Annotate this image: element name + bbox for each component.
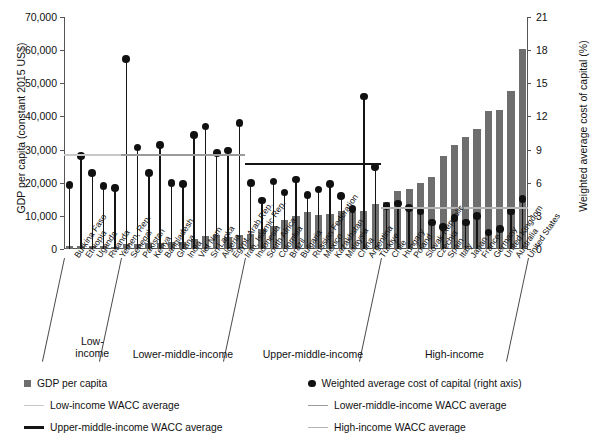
y-tick-label-left: 0: [2, 243, 57, 255]
wacc-dot: [315, 186, 323, 194]
group-label: Low- income: [64, 335, 121, 359]
y-tick-label-left: 60,000: [2, 44, 57, 56]
y-tick-label-left: 30,000: [2, 144, 57, 156]
group-separator: [42, 258, 65, 362]
legend-square-icon: [24, 380, 31, 387]
y-tick-left: [60, 50, 64, 51]
group-label: Upper-middle-income: [245, 348, 381, 360]
legend-label: Upper-middle-income WACC average: [50, 422, 222, 433]
legend-item[interactable]: Weighted average cost of capital (right …: [308, 378, 522, 389]
wacc-dot: [145, 169, 153, 177]
group-separator: [223, 258, 246, 362]
group-separator: [506, 258, 529, 362]
y-tick-right: [527, 183, 531, 184]
y-tick-label-left: 20,000: [2, 177, 57, 189]
wacc-dot: [179, 180, 187, 188]
legend-line-icon: [24, 426, 44, 429]
y-tick-left: [60, 116, 64, 117]
wacc-average-line: [245, 163, 381, 165]
legend-label: Weighted average cost of capital (right …: [322, 378, 522, 389]
wacc-dot: [190, 131, 198, 139]
legend-item[interactable]: GDP per capita: [24, 378, 107, 389]
wacc-dot: [304, 191, 312, 199]
wacc-dot: [270, 178, 278, 186]
wacc-dot: [507, 208, 515, 216]
wacc-dot: [281, 189, 289, 197]
y-tick-label-right: 21: [536, 11, 548, 23]
wacc-dot: [473, 212, 481, 220]
wacc-stem: [205, 126, 206, 249]
wacc-dot: [111, 184, 119, 192]
legend-label: Low-income WACC average: [50, 400, 180, 411]
y-tick-label-right: 9: [536, 144, 542, 156]
y-tick-left: [60, 216, 64, 217]
y-tick-label-right: 6: [536, 177, 542, 189]
y-tick-label-left: 50,000: [2, 77, 57, 89]
y-tick-label-right: 18: [536, 44, 548, 56]
legend-label: Lower-middle-income WACC average: [334, 400, 506, 411]
wacc-dot: [519, 195, 527, 203]
legend-label: High-income WACC average: [334, 422, 466, 433]
legend-item[interactable]: Low-income WACC average: [24, 400, 180, 411]
wacc-dot: [122, 55, 130, 63]
y-tick-left: [60, 183, 64, 184]
wacc-dot: [462, 219, 470, 227]
legend-label: GDP per capita: [37, 378, 107, 389]
y-tick-label-left: 40,000: [2, 110, 57, 122]
y-tick-right: [527, 17, 531, 18]
y-tick-left: [60, 150, 64, 151]
legend-item[interactable]: High-income WACC average: [308, 422, 466, 433]
y-tick-label-right: 15: [536, 77, 548, 89]
wacc-dot: [496, 225, 504, 233]
wacc-average-line: [64, 154, 121, 156]
legend-dot-icon: [308, 380, 316, 388]
group-label: Lower-middle-income: [121, 348, 245, 360]
x-axis-ticks: [64, 17, 528, 181]
y-tick-left: [60, 83, 64, 84]
y-tick-label-right: 12: [536, 110, 548, 122]
wacc-dot: [88, 169, 96, 177]
y-tick-right: [527, 116, 531, 117]
group-label: High-income: [381, 348, 528, 360]
y-tick-label-left: 70,000: [2, 11, 57, 23]
wacc-dot: [326, 180, 334, 188]
y-tick-left: [60, 17, 64, 18]
y-tick-label-left: 10,000: [2, 210, 57, 222]
legend-line-icon: [24, 405, 44, 407]
legend-item[interactable]: Lower-middle-income WACC average: [308, 400, 506, 411]
group-separator: [359, 258, 382, 362]
wacc-dot: [156, 141, 164, 149]
chart-root: GDP per capita (constant 2015 US$) Weigh…: [0, 0, 594, 447]
wacc-dot: [168, 179, 176, 187]
wacc-dot: [337, 192, 345, 200]
wacc-dot: [66, 181, 74, 189]
legend-line-icon: [308, 427, 328, 429]
y-tick-left: [60, 249, 64, 250]
chart-legend: GDP per capitaWeighted average cost of c…: [24, 378, 572, 440]
wacc-stem: [375, 167, 376, 249]
y-axis-right-title: Weighted average cost of capital (%): [577, 11, 589, 241]
wacc-dot: [360, 93, 368, 101]
y-axis-left-line: [64, 17, 65, 249]
legend-line-icon: [308, 405, 328, 407]
legend-item[interactable]: Upper-middle-income WACC average: [24, 422, 222, 433]
wacc-dot: [236, 119, 244, 127]
wacc-dot: [100, 182, 108, 190]
y-tick-right: [527, 150, 531, 151]
wacc-stem: [80, 156, 81, 249]
wacc-stem: [239, 123, 240, 249]
wacc-dot: [428, 219, 436, 227]
wacc-average-line: [121, 154, 245, 156]
wacc-dot: [247, 179, 255, 187]
y-tick-right: [527, 50, 531, 51]
wacc-stem: [69, 185, 70, 249]
y-tick-right: [527, 83, 531, 84]
wacc-stem: [193, 135, 194, 249]
wacc-dot: [292, 176, 300, 184]
